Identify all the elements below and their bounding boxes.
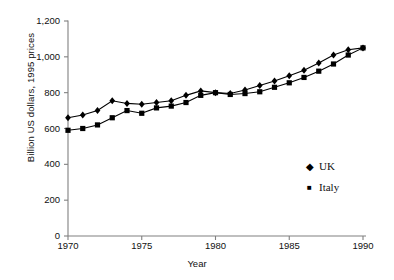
data-point-italy [124, 108, 129, 113]
y-axis-tick-label: 600 [0, 123, 60, 134]
x-axis-tick-label: 1980 [191, 240, 241, 251]
data-point-uk [80, 112, 86, 119]
data-point-italy [198, 93, 203, 98]
y-axis-tick-label: 1,200 [0, 15, 60, 26]
data-point-uk [301, 67, 307, 74]
data-point-italy [360, 45, 365, 50]
legend-item-uk: ◆UK [305, 160, 335, 172]
data-point-uk [286, 72, 292, 79]
data-point-uk [168, 97, 174, 104]
data-point-uk [316, 60, 322, 67]
x-axis-tick-label: 1975 [117, 240, 167, 251]
data-point-italy [139, 111, 144, 116]
data-point-italy [316, 69, 321, 74]
x-axis-tick-label: 1985 [264, 240, 314, 251]
data-point-italy [169, 104, 174, 109]
legend-label: UK [319, 160, 335, 172]
data-point-uk [154, 99, 160, 106]
data-point-uk [139, 101, 145, 108]
data-point-uk [109, 97, 115, 104]
data-point-italy [331, 61, 336, 66]
y-axis-tick-label: 800 [0, 87, 60, 98]
data-point-uk [257, 82, 263, 89]
line-chart: Billion US dollars, 1995 prices Year 020… [0, 0, 394, 280]
y-axis-tick-label: 200 [0, 194, 60, 205]
data-point-uk [345, 46, 351, 53]
data-point-italy [95, 122, 100, 127]
data-point-italy [257, 89, 262, 94]
square-marker-icon: ■ [305, 183, 314, 192]
data-point-italy [65, 128, 70, 133]
data-point-uk [331, 52, 337, 59]
data-point-uk [272, 78, 278, 85]
data-point-uk [183, 92, 189, 99]
data-point-italy [272, 85, 277, 90]
diamond-marker-icon: ◆ [305, 161, 314, 172]
data-point-italy [346, 52, 351, 57]
data-point-italy [228, 92, 233, 97]
data-point-italy [242, 91, 247, 96]
data-point-italy [110, 115, 115, 120]
data-point-italy [301, 75, 306, 80]
data-point-italy [154, 105, 159, 110]
data-point-uk [124, 100, 130, 107]
x-axis-title: Year [0, 258, 394, 269]
legend-label: Italy [319, 181, 339, 193]
data-point-italy [213, 90, 218, 95]
data-point-italy [183, 100, 188, 105]
y-axis-tick-label: 1,000 [0, 51, 60, 62]
legend-item-italy: ■Italy [305, 181, 339, 193]
data-point-uk [65, 114, 71, 121]
data-point-italy [287, 80, 292, 85]
x-axis-tick-label: 1970 [43, 240, 93, 251]
data-point-uk [95, 107, 101, 114]
x-axis-tick-label: 1990 [338, 240, 388, 251]
data-point-italy [80, 126, 85, 131]
series-line-uk [68, 48, 363, 118]
y-axis-tick-label: 400 [0, 158, 60, 169]
